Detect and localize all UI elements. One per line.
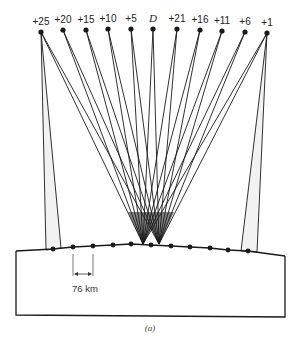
satellite-label: +25 [33, 16, 50, 27]
satellite-dot [242, 29, 247, 34]
satellite-label: +16 [192, 14, 209, 25]
satellite-label: +5 [125, 13, 137, 24]
satellite-label: +15 [78, 14, 95, 25]
ray-line [86, 30, 143, 244]
ground-station-dot [91, 244, 96, 249]
ground-station-dot [149, 243, 154, 248]
scale-label: 76 km [72, 283, 98, 294]
satellite-dot [60, 27, 65, 32]
ground-station-dot [51, 247, 56, 252]
ray-line [159, 30, 200, 244]
ray-line [131, 29, 143, 244]
ground-station-dot [208, 246, 213, 251]
right-wedge [241, 33, 267, 252]
left-wedge [41, 32, 61, 250]
ground-station-dot [111, 243, 116, 248]
satellite-dot [105, 26, 110, 31]
earth-box-outline [16, 251, 285, 317]
earth-block [16, 244, 285, 317]
ground-station-dot [226, 248, 231, 253]
satellite-dot [128, 26, 133, 31]
satellite-label: +10 [100, 13, 117, 24]
satellite-label: +20 [55, 14, 72, 25]
scale-bar: 76 km [72, 254, 98, 294]
arrowhead-right-icon [88, 272, 92, 276]
satellite-dot [150, 26, 155, 31]
satellite-dot [264, 30, 269, 35]
satellite-label: +1 [261, 17, 273, 28]
ground-station-dot [246, 249, 251, 254]
ray-line [108, 29, 143, 244]
arrowhead-left-icon [74, 272, 78, 276]
figure-caption: (a) [145, 323, 156, 333]
satellite-dot [38, 29, 43, 34]
ground-station-dot [129, 242, 134, 247]
satellite-label: +11 [214, 15, 231, 26]
ground-station-dot [169, 244, 174, 249]
satellite-label: D [148, 12, 157, 24]
ground-station-dot [188, 245, 193, 250]
satellite-dot [174, 26, 179, 31]
satellite-dot [197, 27, 202, 32]
ground-stations [51, 242, 251, 254]
satellite-label: +21 [169, 13, 186, 24]
ground-station-dot [71, 245, 76, 250]
ray-line [63, 30, 143, 244]
satellite-dot [83, 27, 88, 32]
satellite-label: +6 [239, 16, 251, 27]
ray-fans [41, 29, 267, 245]
satellite-dot [219, 28, 224, 33]
satellite-geometry-diagram: +25+20+15+10+5D+21+16+11+6+1 76 km (a) [0, 0, 301, 348]
